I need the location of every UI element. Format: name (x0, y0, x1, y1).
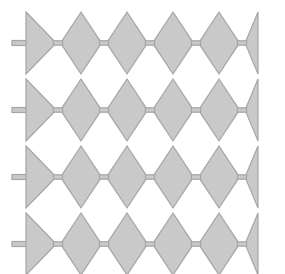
row-4-diamond-2 (108, 213, 146, 274)
row-1-diamond-1 (62, 12, 100, 74)
row-4-neck-3 (145, 242, 154, 246)
diamond-lattice-diagram (0, 0, 285, 274)
row-4-left-half-diamond (26, 213, 54, 274)
row-2-neck-2 (99, 108, 108, 112)
row-2-left-half-diamond (26, 79, 54, 141)
row-2-right-half-diamond (246, 79, 258, 141)
row-2-neck-3 (145, 108, 154, 112)
row-4-neck-1 (53, 242, 62, 246)
row-1-diamond-4 (200, 12, 238, 74)
row-1-neck-1 (53, 41, 62, 45)
row-2-diamond-4 (200, 79, 238, 141)
row-2-neck-5 (237, 108, 246, 112)
row-stem-tab-4 (12, 242, 27, 247)
row-4-diamond-3 (154, 213, 192, 274)
row-2-diamond-3 (154, 79, 192, 141)
row-1-neck-4 (191, 41, 200, 45)
row-4-diamond-4 (200, 213, 238, 274)
lattice-row-4 (12, 213, 258, 274)
row-3-diamond-4 (200, 146, 238, 208)
row-stem-tab-3 (12, 175, 27, 180)
row-3-left-half-diamond (26, 146, 54, 208)
row-4-diamond-1 (62, 213, 100, 274)
row-1-diamond-2 (108, 12, 146, 74)
row-4-neck-2 (99, 242, 108, 246)
row-3-neck-3 (145, 175, 154, 179)
row-1-diamond-3 (154, 12, 192, 74)
lattice-row-1 (12, 12, 258, 74)
row-3-neck-1 (53, 175, 62, 179)
row-3-diamond-1 (62, 146, 100, 208)
row-3-neck-2 (99, 175, 108, 179)
row-1-left-half-diamond (26, 12, 54, 74)
row-3-diamond-3 (154, 146, 192, 208)
row-stem-tab-1 (12, 41, 27, 46)
row-stem-tab-2 (12, 108, 27, 113)
row-2-diamond-2 (108, 79, 146, 141)
row-4-right-half-diamond (246, 213, 258, 274)
row-2-neck-4 (191, 108, 200, 112)
row-4-neck-4 (191, 242, 200, 246)
row-1-right-half-diamond (246, 12, 258, 74)
lattice-rows-group (12, 12, 258, 274)
row-3-neck-4 (191, 175, 200, 179)
row-3-neck-5 (237, 175, 246, 179)
lattice-row-3 (12, 146, 258, 208)
row-1-neck-2 (99, 41, 108, 45)
row-2-diamond-1 (62, 79, 100, 141)
row-2-neck-1 (53, 108, 62, 112)
row-4-neck-5 (237, 242, 246, 246)
row-1-neck-5 (237, 41, 246, 45)
row-3-right-half-diamond (246, 146, 258, 208)
row-3-diamond-2 (108, 146, 146, 208)
row-1-neck-3 (145, 41, 154, 45)
diagram-canvas (0, 0, 285, 274)
lattice-row-2 (12, 79, 258, 141)
